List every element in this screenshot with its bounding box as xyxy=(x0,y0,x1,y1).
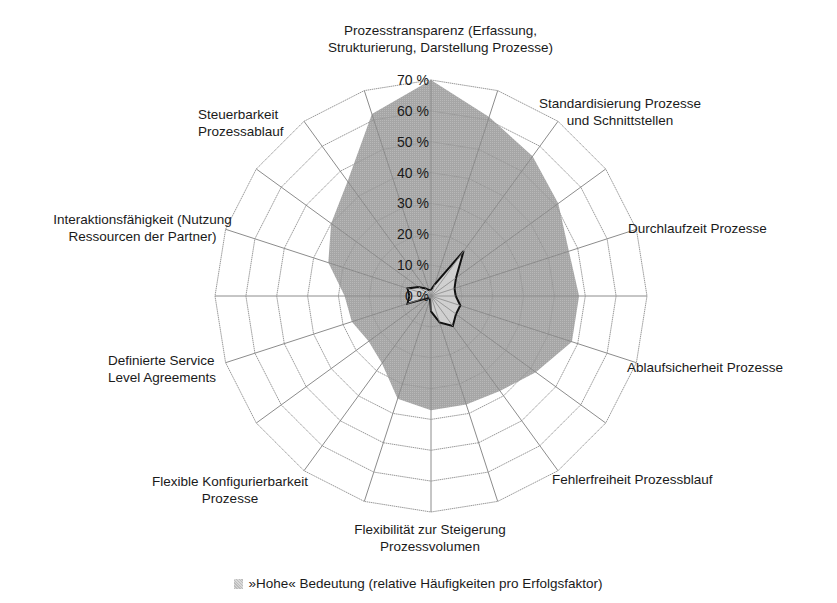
legend-label: »Hohe« Bedeutung (relative Häufigkeiten … xyxy=(248,576,602,591)
label-line: Prozessablauf xyxy=(198,123,284,140)
radar-chart: 0 %10 %20 %30 %40 %50 %60 %70 % xyxy=(0,0,837,603)
label-line: Durchlaufzeit Prozesse xyxy=(628,220,767,237)
tick-label: 60 % xyxy=(397,103,429,119)
tick-label: 40 % xyxy=(397,165,429,181)
tick-label: 50 % xyxy=(397,134,429,150)
label-line: Standardisierung Prozesse xyxy=(530,95,710,112)
tick-label: 10 % xyxy=(397,257,429,273)
label-line: und Schnittstellen xyxy=(530,112,710,129)
label-line: Strukturierung, Darstellung Prozesse) xyxy=(318,39,563,56)
label-line: Flexible Konfigurierbarkeit xyxy=(130,473,330,490)
tick-label: 0 % xyxy=(405,288,429,304)
axis-label-interaktionsfaehigkeit: Interaktionsfähigkeit (Nutzung Ressource… xyxy=(30,211,255,245)
axis-label-fehlerfreiheit: Fehlerfreiheit Prozessblauf xyxy=(552,471,713,488)
label-line: Level Agreements xyxy=(108,369,216,386)
axis-label-durchlaufzeit: Durchlaufzeit Prozesse xyxy=(628,220,767,237)
axis-label-flexible-konfigurierbarkeit: Flexible Konfigurierbarkeit Prozesse xyxy=(130,473,330,507)
label-line: Ablaufsicherheit Prozesse xyxy=(627,359,783,376)
axis-label-service-level-agreements: Definierte Service Level Agreements xyxy=(108,352,216,386)
axis-label-standardisierung: Standardisierung Prozesse und Schnittste… xyxy=(530,95,710,129)
label-line: Prozesstransparenz (Erfassung, xyxy=(318,22,563,39)
tick-label: 70 % xyxy=(397,72,429,88)
label-line: Ressourcen der Partner) xyxy=(30,228,255,245)
axis-label-flexibilitaet-prozessvolumen: Flexibilität zur Steigerung Prozessvolum… xyxy=(330,521,530,555)
legend: »Hohe« Bedeutung (relative Häufigkeiten … xyxy=(0,576,837,591)
label-line: Interaktionsfähigkeit (Nutzung xyxy=(30,211,255,228)
label-line: Prozesse xyxy=(130,490,330,507)
label-line: Fehlerfreiheit Prozessblauf xyxy=(552,471,713,488)
label-line: Flexibilität zur Steigerung xyxy=(330,521,530,538)
axis-label-prozesstransparenz: Prozesstransparenz (Erfassung, Strukturi… xyxy=(318,22,563,56)
axis-label-ablaufsicherheit: Ablaufsicherheit Prozesse xyxy=(627,359,783,376)
label-line: Steuerbarkeit xyxy=(198,106,284,123)
label-line: Definierte Service xyxy=(108,352,216,369)
legend-swatch-icon xyxy=(234,579,243,589)
tick-label: 30 % xyxy=(397,195,429,211)
tick-label: 20 % xyxy=(397,226,429,242)
label-line: Prozessvolumen xyxy=(330,538,530,555)
axis-label-steuerbarkeit: Steuerbarkeit Prozessablauf xyxy=(198,106,284,140)
